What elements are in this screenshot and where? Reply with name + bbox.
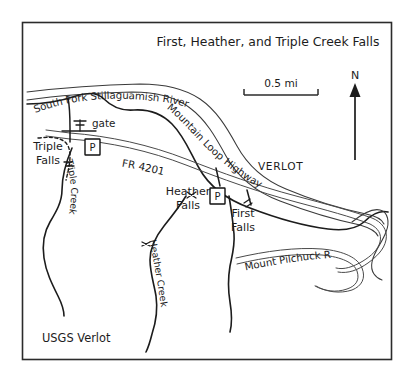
parking-symbol-triple[interactable]: P [85, 139, 100, 155]
falls-name-line2: Falls [231, 221, 255, 234]
map-canvas: P P 0.5 mi N First, Heather, and Triple … [0, 0, 416, 378]
parking-label: P [89, 142, 95, 153]
scale-bar-label: 0.5 mi [264, 77, 297, 89]
parking-label: P [214, 191, 220, 202]
falls-name-line2: Falls [36, 154, 60, 167]
label-first-falls: First Falls [231, 207, 255, 234]
falls-name-line1: Triple [32, 140, 63, 153]
page-title: First, Heather, and Triple Creek Falls [157, 34, 380, 49]
label-gate: gate [92, 117, 115, 129]
falls-name-line1: Heather [166, 185, 211, 198]
falls-name-line1: First [231, 207, 255, 220]
source-note: USGS Verlot [42, 331, 111, 345]
north-arrow-label: N [351, 69, 359, 82]
map-figure: P P 0.5 mi N First, Heather, and Triple … [0, 0, 416, 378]
parking-symbol-heather[interactable]: P [210, 188, 225, 204]
label-triple-falls: Triple Falls [32, 140, 63, 167]
falls-name-line2: Falls [176, 199, 200, 212]
label-verlot: VERLOT [258, 160, 303, 172]
